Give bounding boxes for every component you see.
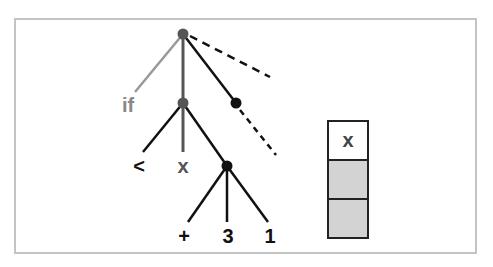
leaf-plus: + — [178, 225, 190, 247]
edge-expr-dashed — [240, 110, 276, 155]
leaf-3: 3 — [222, 225, 233, 247]
leaf-x: x — [177, 155, 188, 177]
stack-cell-bottom — [327, 198, 369, 239]
edge-root-expr — [183, 34, 236, 103]
cond-node — [178, 98, 189, 109]
stack: x — [327, 120, 369, 239]
edge-cond-lt — [143, 103, 183, 152]
edge-plusnode-plus — [188, 166, 227, 222]
stack-cell-top: x — [327, 120, 369, 161]
expr-node — [231, 98, 242, 109]
edge-root-dashed — [190, 36, 270, 77]
edge-root-if — [135, 34, 183, 92]
leaf-1: 1 — [264, 225, 275, 247]
root-node — [178, 29, 189, 40]
stack-cell-middle — [327, 159, 369, 200]
leaf-lt: < — [133, 155, 145, 177]
edge-cond-plusnode — [183, 103, 227, 166]
syntax-tree: if < x + 3 1 — [0, 0, 493, 267]
edge-plusnode-1 — [227, 166, 268, 222]
plus-node — [222, 161, 233, 172]
leaf-if: if — [122, 94, 135, 116]
